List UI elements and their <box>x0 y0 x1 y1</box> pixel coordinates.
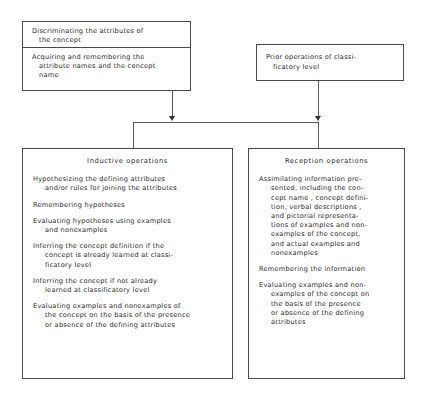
reception-operations-body: Assimilating information pre- sented, in… <box>249 166 404 335</box>
list-item: Evaluating examples and non- examples of… <box>259 281 396 327</box>
discrimination-box-section-2-text: Acquiring and remembering the attribute … <box>32 53 182 81</box>
connector-to-reception-panel <box>318 122 319 148</box>
inductive-operations-title-wrap: Inductive operations <box>23 149 232 166</box>
list-item: Inferring the concept if not already lea… <box>33 277 224 295</box>
reception-operations-title: Reception operations <box>255 157 398 166</box>
connector-left-drop <box>172 91 173 117</box>
list-item: Hypothesizing the defining attributes an… <box>33 175 224 193</box>
connector-junction-bar <box>133 122 319 123</box>
reception-operations-title-wrap: Reception operations <box>249 149 404 166</box>
connector-to-inductive-panel <box>133 122 134 148</box>
discrimination-box-section-1-text: Discriminating the attributes of the con… <box>32 27 182 45</box>
prior-operations-box-section-1: Prior operations of classi- ficatory lev… <box>257 45 403 80</box>
discrimination-box-section-2: Acquiring and remembering the attribute … <box>23 47 190 90</box>
connector-left-arrowhead <box>169 116 175 121</box>
prior-operations-box-text: Prior operations of classi- ficatory lev… <box>266 53 356 71</box>
list-item: Evaluating examples and nonexamples of t… <box>33 302 224 330</box>
connector-right-drop <box>318 81 319 117</box>
inductive-operations-title: Inductive operations <box>29 157 226 166</box>
diagram-canvas: Discriminating the attributes of the con… <box>0 0 430 407</box>
list-item: Remembering hypotheses <box>33 201 224 210</box>
list-item: Evaluating hypotheses using examples and… <box>33 217 224 235</box>
inductive-operations-body: Hypothesizing the defining attributes an… <box>23 166 232 338</box>
list-item: Inferring the concept definition if the … <box>33 242 224 270</box>
list-item: Remembering the information <box>259 265 396 274</box>
prior-operations-box: Prior operations of classi- ficatory lev… <box>256 44 404 81</box>
discrimination-box: Discriminating the attributes of the con… <box>22 21 191 91</box>
list-item: Assimilating information pre- sented, in… <box>259 175 396 258</box>
reception-operations-panel: Reception operations Assimilating inform… <box>248 148 405 379</box>
inductive-operations-panel: Inductive operations Hypothesizing the d… <box>22 148 233 379</box>
discrimination-box-section-1: Discriminating the attributes of the con… <box>23 22 190 47</box>
connector-right-arrowhead <box>315 116 321 121</box>
